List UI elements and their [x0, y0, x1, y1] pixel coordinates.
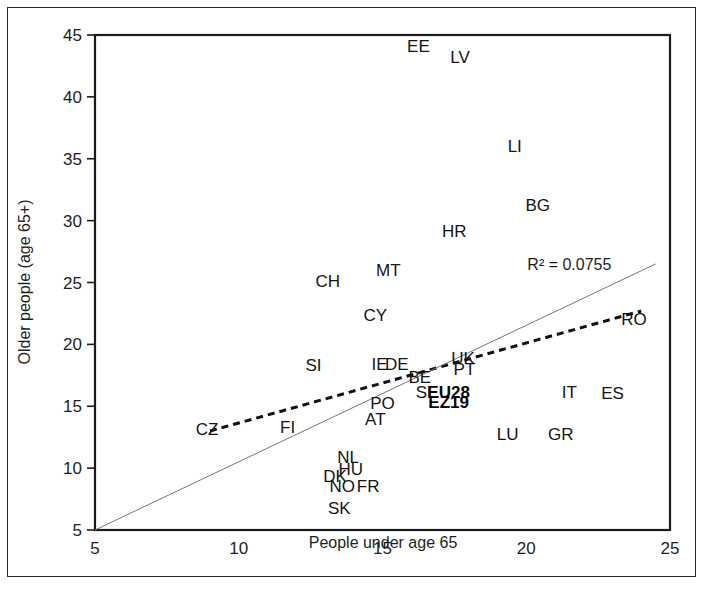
data-label-ez19: EZ19	[428, 393, 469, 412]
x-tick-20: 20	[517, 539, 536, 558]
data-label-cy: CY	[364, 306, 388, 325]
y-tick-20: 20	[63, 335, 82, 354]
data-label-ch: CH	[316, 272, 341, 291]
data-label-it: IT	[562, 383, 577, 402]
figure-root: 510152025 51015202530354045 EELVLIBGHRMT…	[0, 0, 703, 591]
data-label-lv: LV	[450, 48, 470, 67]
data-label-ro: RO	[621, 310, 647, 329]
data-label-ee: EE	[407, 37, 430, 56]
data-label-pt: PT	[454, 360, 476, 379]
y-tick-35: 35	[63, 150, 82, 169]
data-label-mt: MT	[376, 261, 401, 280]
y-tick-40: 40	[63, 88, 82, 107]
data-label-hr: HR	[442, 222, 467, 241]
data-point-labels: EELVLIBGHRMTCHCYROSIIEDEUKPTBESEEU28EZ19…	[196, 37, 647, 518]
data-label-fi: FI	[280, 418, 295, 437]
annotation-r-squared: R² = 0.0755	[527, 256, 611, 273]
data-label-es: ES	[601, 384, 624, 403]
x-tick-25: 25	[661, 539, 680, 558]
data-label-gr: GR	[548, 425, 574, 444]
data-label-bg: BG	[525, 196, 550, 215]
y-tick-45: 45	[63, 26, 82, 45]
data-label-cz: CZ	[196, 420, 219, 439]
scatter-chart: 510152025 51015202530354045 EELVLIBGHRMT…	[0, 0, 703, 591]
y-tick-10: 10	[63, 459, 82, 478]
x-axis-title: People under age 65	[309, 534, 458, 551]
x-tick-5: 5	[90, 539, 99, 558]
data-label-li: LI	[508, 137, 522, 156]
data-label-fr: FR	[357, 477, 380, 496]
data-label-de: DE	[385, 355, 409, 374]
data-label-at: AT	[365, 410, 385, 429]
y-tick-30: 30	[63, 212, 82, 231]
data-label-si: SI	[305, 356, 321, 375]
plot-area-frame	[95, 35, 670, 530]
y-tick-5: 5	[73, 521, 82, 540]
y-tick-25: 25	[63, 274, 82, 293]
y-axis-tick-labels: 51015202530354045	[63, 26, 95, 540]
data-label-sk: SK	[328, 499, 351, 518]
data-label-lu: LU	[497, 425, 519, 444]
x-tick-10: 10	[229, 539, 248, 558]
y-tick-15: 15	[63, 397, 82, 416]
y-axis-title: Older people (age 65+)	[16, 200, 33, 365]
chart-annotations: R² = 0.0755	[527, 256, 611, 273]
data-label-no: NO	[330, 477, 356, 496]
